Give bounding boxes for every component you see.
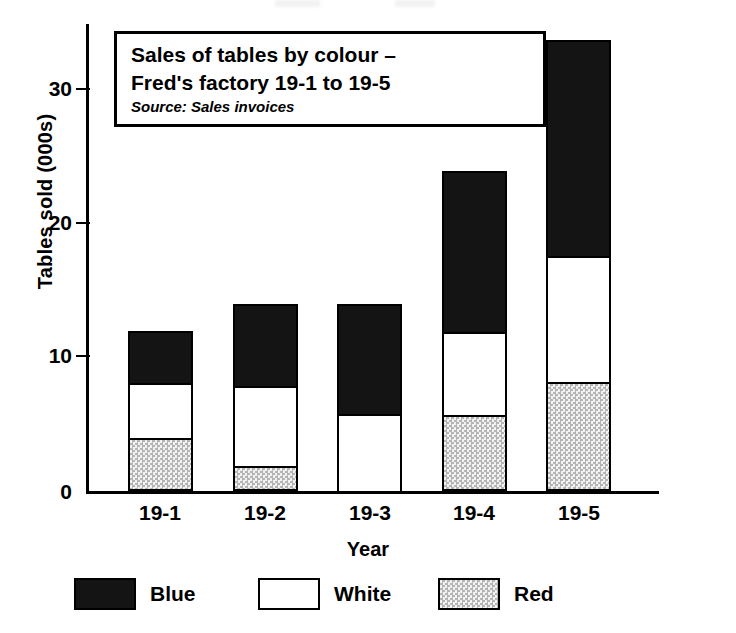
x-tick-label-19-1: 19-1 (100, 501, 220, 525)
bar-segment-white-19-3 (337, 414, 402, 491)
y-tick-label-20: 20 (32, 212, 72, 233)
bar-segment-blue-19-5 (546, 40, 611, 256)
x-axis-line (86, 491, 659, 494)
chart-figure: Tables sold (000s) 30 20 10 0 19-1 19-2 … (0, 0, 736, 633)
legend-swatch-blue-icon (74, 578, 136, 610)
bar-19-2 (233, 304, 298, 491)
bar-segment-red-19-1 (128, 438, 193, 491)
chart-title-line-1: Sales of tables by colour – (131, 41, 543, 69)
bar-segment-blue-19-2 (233, 304, 298, 385)
bar-segment-red-19-2 (233, 466, 298, 491)
chart-legend: Blue White Red (0, 578, 736, 622)
legend-swatch-white-icon (258, 578, 320, 610)
y-tick-label-10: 10 (32, 345, 72, 366)
bar-19-5 (546, 40, 611, 491)
scan-artifact-left (275, 0, 320, 7)
legend-label-red: Red (514, 582, 554, 606)
bar-segment-white-19-4 (442, 332, 507, 415)
y-tick-label-0: 0 (32, 481, 72, 502)
bar-19-1 (128, 331, 193, 491)
legend-swatch-red-icon (438, 578, 500, 610)
legend-item-white: White (258, 578, 391, 610)
bar-19-4 (442, 171, 507, 491)
x-tick-label-19-2: 19-2 (205, 501, 325, 525)
chart-source-note: Source: Sales invoices (131, 97, 543, 117)
x-axis-title: Year (0, 538, 736, 561)
legend-label-blue: Blue (150, 582, 196, 606)
chart-title-line-2: Fred's factory 19-1 to 19-5 (131, 69, 543, 97)
bar-segment-red-19-5 (546, 382, 611, 491)
x-tick-label-19-5: 19-5 (519, 501, 639, 525)
y-axis-title: Tables sold (000s) (34, 72, 57, 332)
bar-segment-white-19-1 (128, 383, 193, 438)
bar-segment-blue-19-4 (442, 171, 507, 332)
bar-segment-blue-19-3 (337, 304, 402, 413)
legend-item-blue: Blue (74, 578, 196, 610)
scan-artifact-right (395, 0, 435, 7)
chart-title-box: Sales of tables by colour – Fred's facto… (114, 31, 546, 127)
x-tick-label-19-3: 19-3 (310, 501, 430, 525)
bar-19-3 (337, 304, 402, 491)
x-tick-label-19-4: 19-4 (414, 501, 534, 525)
y-tick-label-30: 30 (32, 78, 72, 99)
bar-segment-red-19-4 (442, 415, 507, 491)
bar-segment-blue-19-1 (128, 331, 193, 383)
legend-item-red: Red (438, 578, 554, 610)
legend-label-white: White (334, 582, 391, 606)
bar-segment-white-19-2 (233, 386, 298, 466)
bar-segment-white-19-5 (546, 256, 611, 381)
